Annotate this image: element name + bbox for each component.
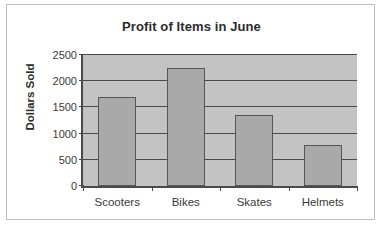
bar-slot [83, 55, 152, 186]
x-tick-mark [83, 186, 84, 191]
y-tick-label: 2000 [33, 75, 77, 87]
x-tick-label-helmets: Helmets [283, 196, 363, 208]
bar-slot [220, 55, 289, 186]
chart-frame: Profit of Items in June Dollars Sold 050… [6, 4, 375, 220]
bar-helmets [304, 145, 342, 186]
bar-scooters [98, 97, 136, 186]
y-tick-label: 0 [33, 180, 77, 192]
bar-slot [289, 55, 358, 186]
x-tick-mark [357, 186, 358, 191]
x-tick-mark [152, 186, 153, 191]
bar-bikes [167, 68, 205, 186]
y-tick-label: 1000 [33, 128, 77, 140]
y-tick-label: 500 [33, 154, 77, 166]
plot-area: 05001000150020002500 ScootersBikesSkates… [81, 55, 357, 188]
x-tick-mark [289, 186, 290, 191]
y-tick-label: 2500 [33, 49, 77, 61]
y-tick-label: 1500 [33, 101, 77, 113]
x-tick-mark [220, 186, 221, 191]
bar-slot [152, 55, 221, 186]
bar-skates [235, 115, 273, 186]
chart-title: Profit of Items in June [7, 19, 376, 34]
bar-series [83, 55, 357, 186]
